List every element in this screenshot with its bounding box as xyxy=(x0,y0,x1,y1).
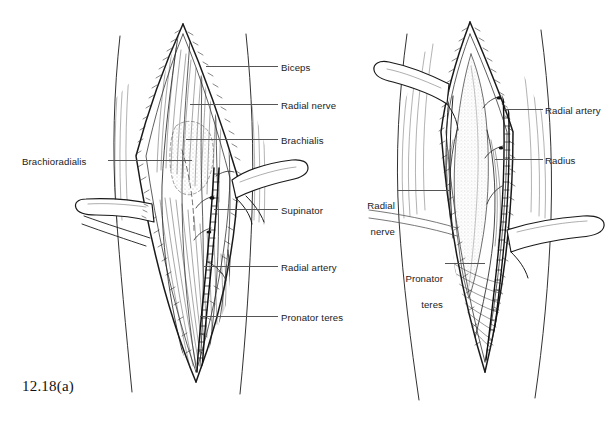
leader-line-biceps xyxy=(206,66,278,67)
leader-line-radius xyxy=(495,159,543,160)
label-biceps: Biceps xyxy=(281,61,310,74)
label-pronator-teres-b-line2: teres xyxy=(421,299,443,310)
label-radial-artery-a: Radial artery xyxy=(281,261,337,274)
label-brachialis: Brachialis xyxy=(281,134,324,147)
leader-line-brachioradialis xyxy=(108,160,192,161)
label-radial-artery-b: Radial artery xyxy=(545,104,601,117)
label-radial-nerve-a: Radial nerve xyxy=(281,99,336,112)
figure-caption-a: 12.18(a) xyxy=(22,378,74,395)
label-radial-nerve-b: Radial nerve xyxy=(345,186,395,251)
figure-root: Biceps Radial nerve Brachialis Brachiora… xyxy=(0,0,611,422)
leader-line-radial-artery-b xyxy=(505,109,543,110)
leader-line-supinator xyxy=(214,209,278,210)
leader-line-pronator-teres-a xyxy=(200,316,278,317)
leader-line-brachialis xyxy=(186,139,278,140)
retractor-blade-upper-left xyxy=(374,61,458,130)
leader-line-pronator-teres-b xyxy=(445,263,485,264)
leader-line-radial-nerve xyxy=(190,104,278,105)
leader-line-radial-nerve-b xyxy=(397,190,451,191)
label-radial-nerve-b-line1: Radial xyxy=(367,200,395,211)
label-pronator-teres-a: Pronator teres xyxy=(281,311,343,324)
label-pronator-teres-b-line1: Pronator xyxy=(405,273,443,284)
label-radial-nerve-b-line2: nerve xyxy=(371,226,396,237)
label-pronator-teres-b: Pronator teres xyxy=(345,259,443,324)
label-brachioradialis: Brachioradialis xyxy=(22,155,86,168)
label-radius: Radius xyxy=(545,154,575,167)
retractor-blade-right xyxy=(507,216,604,278)
figure-panel-b: Radial artery Radius Radial nerve Pronat… xyxy=(345,0,611,422)
figure-panel-a: Biceps Radial nerve Brachialis Brachiora… xyxy=(0,0,345,422)
leader-line-radial-artery-a xyxy=(204,266,278,267)
label-supinator: Supinator xyxy=(281,204,323,217)
retractor-blade-left xyxy=(75,199,154,246)
